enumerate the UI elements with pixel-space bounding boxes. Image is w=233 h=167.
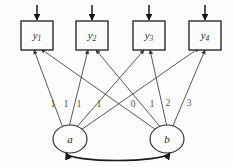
edge-label-b-y3: 2 (166, 97, 171, 108)
observed-box-y1-group: y1 (21, 21, 53, 50)
latent-node-b-group: b (150, 125, 184, 153)
latent-label-a: a (67, 133, 73, 145)
path-b-to-y2 (96, 50, 162, 129)
latent-label-b: b (164, 133, 170, 145)
edge-label-a-y2: 1 (64, 98, 69, 109)
residual-arrows (37, 5, 205, 20)
observed-box-y4-group: y4 (189, 21, 221, 50)
loading-paths-intercept (34, 48, 199, 132)
loading-paths-slope (41, 49, 205, 132)
edge-label-b-y1: 0 (131, 98, 136, 109)
path-b-to-y1 (41, 49, 159, 132)
diagram-svg: y1 y2 y3 y4 (0, 0, 233, 167)
edge-label-b-y2: 1 (150, 98, 155, 109)
edge-label-a-y1: 1 (51, 98, 56, 109)
path-a-to-y4 (78, 48, 199, 132)
observed-box-y3-group: y3 (133, 21, 165, 50)
observed-box-y2-group: y2 (76, 21, 108, 50)
path-diagram-canvas: y1 y2 y3 y4 (0, 0, 233, 167)
path-b-to-y4 (172, 50, 205, 128)
path-a-to-y2 (69, 50, 88, 127)
path-b-to-y3 (150, 50, 167, 127)
edge-label-a-y3: 1 (77, 98, 82, 109)
covariance-arrow-a-b (66, 153, 170, 161)
edge-label-a-y4: 1 (97, 98, 102, 109)
latent-node-a-group: a (53, 125, 87, 153)
edge-label-b-y4: 3 (187, 97, 192, 108)
